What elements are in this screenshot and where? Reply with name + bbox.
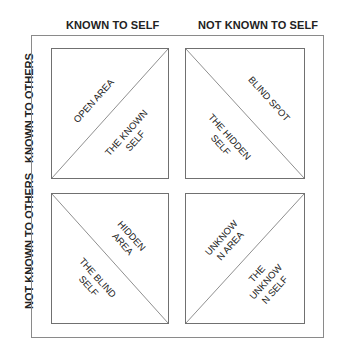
column-header-not-known-to-self: NOT KNOWN TO SELF	[198, 19, 318, 31]
quadrant-blind-spot: BLIND SPOT THE HIDDEN SELF	[185, 48, 305, 179]
column-header-known-to-self: KNOWN TO SELF	[66, 19, 159, 31]
quadrant-unknown-area: UNKNOW N AREA THE UNKNOW N SELF	[185, 193, 305, 324]
quadrant-open-area: OPEN AREA THE KNOWN SELF	[51, 48, 169, 179]
quadrant-hidden-area: HIDDEN AREA THE BLIND SELF	[51, 193, 169, 324]
